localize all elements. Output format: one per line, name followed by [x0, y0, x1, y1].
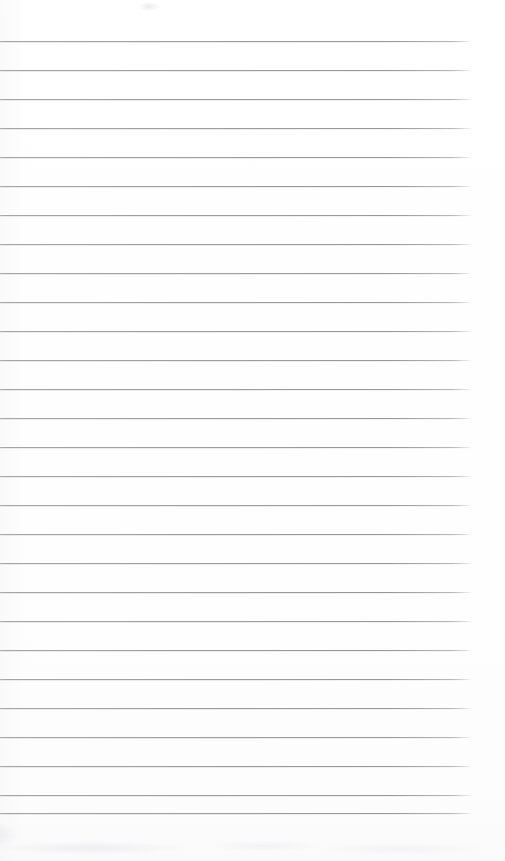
rule-line-10: [0, 302, 472, 303]
rule-line-26: [0, 766, 472, 767]
ruled-lines-group: [0, 0, 505, 861]
rule-line-21: [0, 621, 472, 622]
rule-line-7: [0, 215, 472, 216]
rule-line-23: [0, 679, 472, 680]
rule-line-9: [0, 273, 472, 274]
rule-line-16: [0, 476, 472, 477]
rule-line-12: [0, 360, 472, 361]
rule-line-8: [0, 244, 472, 245]
rule-line-3: [0, 99, 472, 100]
rule-line-13: [0, 389, 472, 390]
rule-line-2: [0, 70, 472, 71]
rule-line-4: [0, 128, 472, 129]
rule-line-6: [0, 186, 472, 187]
rule-line-15: [0, 447, 472, 448]
scanned-page: [0, 0, 505, 861]
rule-line-5: [0, 157, 472, 158]
rule-line-17: [0, 505, 472, 506]
rule-line-1: [0, 41, 472, 42]
rule-line-25: [0, 737, 472, 738]
rule-line-22: [0, 650, 472, 651]
rule-line-27: [0, 795, 472, 796]
rule-line-18: [0, 534, 472, 535]
rule-line-14: [0, 418, 472, 419]
rule-line-19: [0, 563, 472, 564]
rule-line-11: [0, 331, 472, 332]
rule-line-20: [0, 592, 472, 593]
rule-line-24: [0, 708, 472, 709]
rule-line-28: [0, 813, 472, 814]
